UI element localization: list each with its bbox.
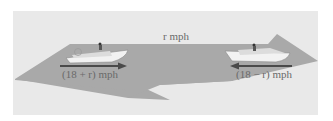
- left-boat-speed-label: (18 + r) mph: [62, 69, 118, 80]
- diagram-canvas: [0, 0, 333, 121]
- current-speed-label: r mph: [163, 31, 189, 42]
- right-boat-speed-label: (18 − r) mph: [236, 69, 292, 80]
